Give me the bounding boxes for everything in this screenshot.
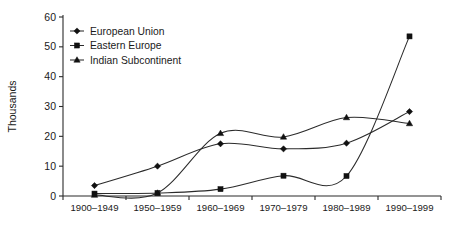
diamond-marker-point xyxy=(217,141,223,147)
diamond-marker-point xyxy=(91,182,97,188)
series-line-indian-subcontinent xyxy=(95,117,410,198)
x-tick-label: 1950–1959 xyxy=(133,202,181,213)
legend-label: European Union xyxy=(90,26,165,37)
legend-diamond-marker xyxy=(74,28,80,34)
y-tick-label: 0 xyxy=(50,190,56,202)
y-tick-label: 10 xyxy=(44,160,56,172)
x-tick-label: 1980–1989 xyxy=(322,202,370,213)
diamond-marker-point xyxy=(154,163,160,169)
diamond-marker-point xyxy=(280,146,286,152)
x-tick-label: 1900–1949 xyxy=(70,202,118,213)
y-tick-label: 30 xyxy=(44,100,56,112)
x-tick-label: 1990–1999 xyxy=(385,202,433,213)
square-marker-point xyxy=(407,34,412,39)
x-tick-label: 1960–1969 xyxy=(196,202,244,213)
chart-canvas: 0102030405060Thousands1900–19491950–1959… xyxy=(0,0,449,230)
square-marker-point xyxy=(344,173,349,178)
y-tick-label: 60 xyxy=(44,11,56,23)
series-line-european-union xyxy=(95,112,410,186)
legend-label: Eastern Europe xyxy=(90,40,162,51)
line-chart: 0102030405060Thousands1900–19491950–1959… xyxy=(0,0,449,230)
legend-square-marker xyxy=(74,43,79,48)
diamond-marker-point xyxy=(343,140,349,146)
y-tick-label: 50 xyxy=(44,40,56,52)
y-tick-label: 20 xyxy=(44,130,56,142)
square-marker-point xyxy=(281,173,286,178)
diamond-marker-point xyxy=(406,108,412,114)
legend-label: Indian Subcontinent xyxy=(90,55,181,66)
y-axis-title: Thousands xyxy=(6,81,18,133)
square-marker-point xyxy=(218,187,223,192)
y-tick-label: 40 xyxy=(44,70,56,82)
x-tick-label: 1970–1979 xyxy=(259,202,307,213)
